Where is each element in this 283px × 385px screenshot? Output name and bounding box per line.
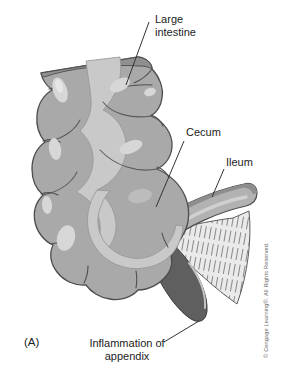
anatomy-illustration (0, 0, 283, 385)
inflammation-of-appendix-label: Inflammation of appendix (88, 337, 166, 363)
ileum-label: Ileum (226, 156, 253, 169)
figure-panel: Large intestine Cecum Ileum Inflammation… (0, 0, 283, 385)
inflammation-leader (164, 321, 199, 342)
large-intestine-label: Large intestine (155, 13, 211, 39)
panel-letter-label: (A) (24, 336, 39, 348)
cecum-label: Cecum (186, 126, 221, 139)
copyright-notice: © Cengage Learning®. All Rights Reserved… (263, 242, 269, 358)
colon-shape (32, 57, 189, 300)
